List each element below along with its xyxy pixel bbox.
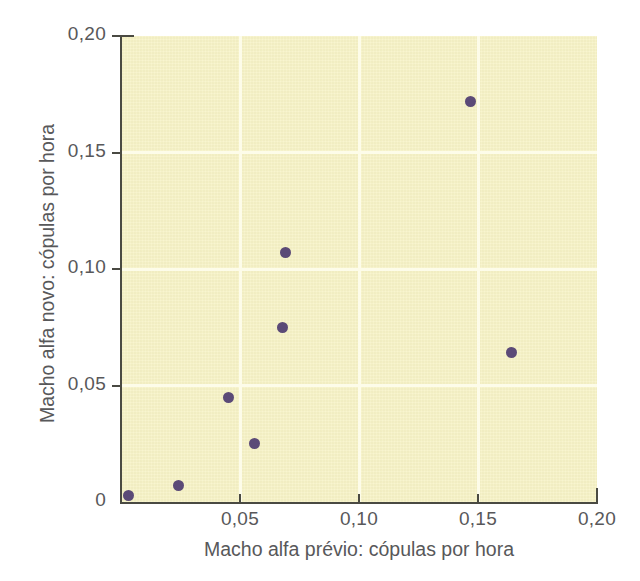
gridline-horizontal xyxy=(121,268,597,271)
axis-top-left-corner-stub xyxy=(120,35,134,37)
y-axis-tick xyxy=(112,268,122,270)
gridline-horizontal xyxy=(121,384,597,387)
plot-area xyxy=(121,36,597,502)
x-axis-tick-label: 0,10 xyxy=(324,508,394,530)
data-point xyxy=(223,392,234,403)
data-point xyxy=(173,480,184,491)
data-point xyxy=(506,347,517,358)
x-axis-tick-label: 0,20 xyxy=(562,508,632,530)
y-axis-tick xyxy=(112,152,122,154)
x-axis-tick-label: 0,05 xyxy=(205,508,275,530)
y-axis-title: Macho alfa novo: cópulas por hora xyxy=(36,39,59,509)
x-axis-tick xyxy=(596,494,598,503)
data-point xyxy=(277,322,288,333)
x-axis-title: Macho alfa prévio: cópulas por hora xyxy=(121,538,597,561)
x-axis-tick xyxy=(477,494,479,503)
y-axis-tick xyxy=(112,385,122,387)
x-axis-tick-label: 0,15 xyxy=(443,508,513,530)
x-axis-tick xyxy=(358,494,360,503)
x-axis-tick xyxy=(239,494,241,503)
data-point xyxy=(280,247,291,258)
gridline-horizontal xyxy=(121,151,597,154)
scatter-plot-figure: 0,050,100,150,20 00,050,100,150,20 Macho… xyxy=(0,0,640,581)
data-point xyxy=(465,96,476,107)
data-point xyxy=(123,490,134,501)
y-axis-tick xyxy=(112,35,122,37)
data-point xyxy=(249,438,260,449)
